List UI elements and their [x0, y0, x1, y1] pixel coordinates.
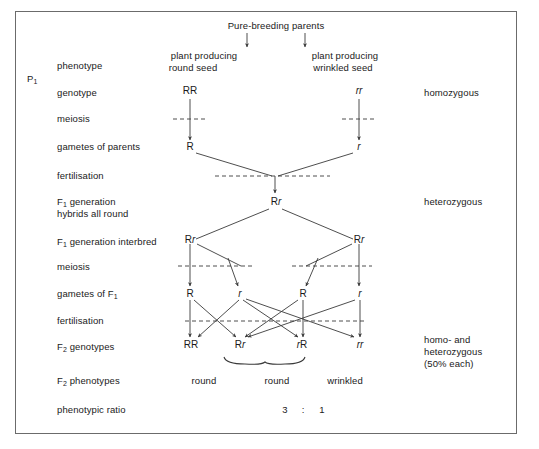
row-label-f2-phenotypes: F2 phenotypes — [57, 375, 120, 388]
f2-phenotype-round-heterozygous: round — [265, 375, 290, 387]
f1-left-interbred-genotype-Rr: Rr — [185, 234, 196, 246]
f2-phenotype-wrinkled: wrinkled — [327, 375, 363, 387]
row-label-phenotypic-ratio: phenotypic ratio — [57, 404, 126, 416]
f2-genotype-Rr: Rr — [235, 339, 246, 351]
diagram-page: P1 phenotype genotype meiosis gametes of… — [0, 0, 539, 449]
annotation-heterozygous: heterozygous — [424, 196, 482, 208]
row-label-f2-genotypes: F2 genotypes — [57, 341, 114, 354]
row-label-gametes-of-parents: gametes of parents — [57, 141, 140, 153]
row-label-f1-hybrids: hybrids all round — [57, 208, 128, 220]
right-parent-genotype-rr: rr — [356, 85, 363, 97]
row-label-fertilisation-1: fertilisation — [57, 170, 104, 182]
f1-gamete-2-r: r — [238, 288, 241, 300]
row-label-meiosis-1: meiosis — [57, 113, 90, 125]
f1-gamete-3-R: R — [299, 288, 306, 300]
row-label-genotype: genotype — [57, 87, 97, 99]
f1-gamete-4-r: r — [358, 288, 361, 300]
row-label-f1-interbred: F1 generation interbred — [57, 236, 157, 249]
f1-zygote-genotype-Rr: Rr — [271, 196, 282, 208]
annotation-f2-zygosity-line1: homo- and — [424, 334, 470, 346]
f1-gamete-1-R: R — [186, 288, 193, 300]
left-parent-genotype-RR: RR — [183, 85, 197, 97]
ratio-value-left: 3 — [282, 404, 287, 416]
annotation-f2-zygosity-line2: heterozygous — [424, 346, 482, 358]
row-label-gametes-of-f1: gametes of F1 — [57, 288, 118, 301]
ratio-colon: : — [302, 404, 305, 416]
right-parent-phenotype-line1: plant producing — [312, 50, 378, 62]
annotation-f2-zygosity-line3: (50% each) — [424, 358, 474, 370]
diagram-frame — [15, 11, 517, 434]
row-label-phenotype: phenotype — [57, 60, 102, 72]
left-parent-phenotype-line2: round seed — [169, 62, 218, 74]
ratio-value-right: 1 — [319, 404, 324, 416]
f2-genotype-rR: rR — [297, 339, 308, 351]
f1-right-interbred-genotype-Rr: Rr — [354, 234, 365, 246]
row-label-meiosis-2: meiosis — [57, 261, 90, 273]
pure-breeding-parents-caption: Pure-breeding parents — [228, 20, 325, 32]
left-parent-gamete-R: R — [186, 141, 193, 153]
row-label-fertilisation-2: fertilisation — [57, 315, 104, 327]
right-parent-gamete-r: r — [357, 141, 360, 153]
f2-genotype-RR: RR — [184, 339, 198, 351]
right-parent-phenotype-line2: wrinkled seed — [313, 62, 372, 74]
left-parent-phenotype-line1: plant producing — [171, 50, 237, 62]
annotation-homozygous: homozygous — [424, 87, 479, 99]
f2-genotype-rr: rr — [357, 339, 364, 351]
f2-phenotype-round-homozygous: round — [192, 375, 217, 387]
generation-label-p1: P1 — [27, 73, 37, 86]
